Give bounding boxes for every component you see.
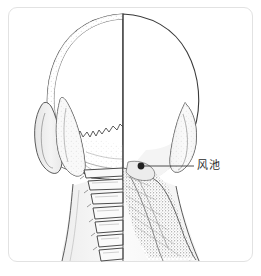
anatomy-illustration: [0, 0, 261, 276]
acupoint-label-fengchi: 风池: [197, 159, 220, 172]
acupoint-dot: [138, 163, 145, 170]
figure-root: 风池: [0, 0, 261, 276]
